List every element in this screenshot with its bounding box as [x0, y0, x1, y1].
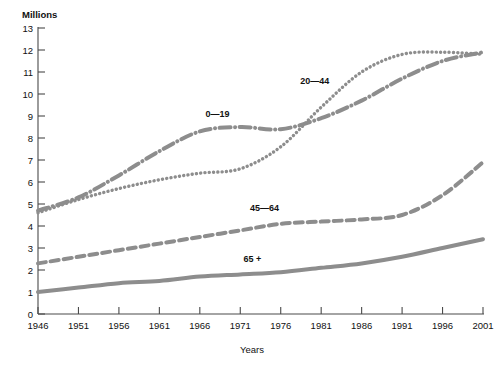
series-path [38, 239, 483, 292]
series-label-3: 45—64 [250, 203, 279, 213]
series-path [38, 52, 483, 210]
x-tick-label: 2001 [472, 320, 493, 331]
x-axis-title: Years [240, 344, 264, 355]
y-tick-label: 0 [28, 309, 33, 320]
y-axis-title: Millions [22, 9, 57, 20]
series-line-3 [38, 162, 483, 263]
x-tick-label: 1981 [311, 320, 332, 331]
y-tick-label: 2 [28, 265, 33, 276]
series-line-2 [38, 52, 483, 213]
x-tick-label: 1976 [270, 320, 291, 331]
x-tick-label: 1951 [68, 320, 89, 331]
chart-canvas: 012345678910111213 194619511956196119661… [0, 0, 504, 365]
y-tick-label: 5 [28, 199, 33, 210]
x-tick-label: 1961 [149, 320, 170, 331]
y-axis: 012345678910111213 [22, 23, 45, 320]
y-tick-label: 3 [28, 243, 33, 254]
line-chart: 012345678910111213 194619511956196119661… [0, 0, 504, 365]
x-tick-label: 1956 [108, 320, 129, 331]
x-tick-label: 1991 [392, 320, 413, 331]
series-line-4 [38, 239, 483, 292]
x-tick-label: 1966 [189, 320, 210, 331]
x-axis: 1946195119561961196619711976198119861991… [27, 307, 493, 331]
x-tick-label: 1946 [27, 320, 48, 331]
series-path [38, 52, 483, 213]
series-label-2: 20—44 [300, 76, 329, 86]
series-label-1: 0—19 [206, 109, 230, 119]
y-tick-label: 10 [22, 89, 33, 100]
x-tick-label: 1996 [432, 320, 453, 331]
y-tick-label: 4 [28, 221, 33, 232]
y-tick-label: 8 [28, 133, 33, 144]
y-tick-label: 12 [22, 45, 33, 56]
x-tick-label: 1971 [230, 320, 251, 331]
y-tick-label: 11 [23, 67, 33, 78]
series-label-4: 65 + [244, 254, 262, 264]
y-tick-label: 13 [22, 23, 33, 34]
y-tick-label: 7 [28, 155, 33, 166]
y-tick-label: 6 [28, 177, 33, 188]
series-path [38, 162, 483, 263]
x-tick-label: 1986 [351, 320, 372, 331]
series-annotations: 0—1920—4445—6465 + [206, 76, 330, 264]
y-tick-label: 1 [28, 287, 33, 298]
series-line-1 [38, 52, 483, 210]
y-tick-label: 9 [28, 111, 33, 122]
